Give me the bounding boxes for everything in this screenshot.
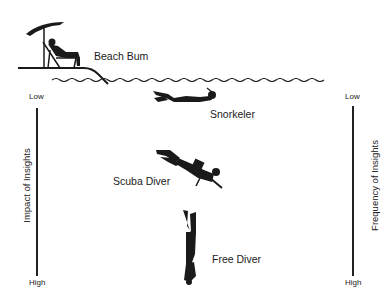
beach-bum-label: Beach Bum — [94, 50, 148, 62]
illustration-layer — [0, 0, 388, 292]
free-diver-figure-icon — [183, 210, 196, 285]
snorkeler-label: Snorkeler — [210, 108, 255, 120]
snorkeler-figure-icon — [153, 88, 216, 102]
left-axis-title: Impact of Insights — [21, 136, 32, 236]
water-surface-wave — [52, 79, 324, 82]
left-axis-line — [36, 108, 38, 276]
right-axis-line — [352, 106, 354, 276]
scuba-diver-label: Scuba Diver — [113, 175, 170, 187]
right-axis-low-label: Low — [345, 92, 360, 101]
right-axis-title: Frequency of Insights — [369, 126, 380, 246]
left-axis-low-label: Low — [29, 92, 44, 101]
right-axis-high-label: High — [345, 278, 361, 287]
free-diver-label: Free Diver — [212, 253, 261, 265]
left-axis-high-label: High — [29, 278, 45, 287]
beach-bum-figure-icon — [43, 39, 80, 69]
